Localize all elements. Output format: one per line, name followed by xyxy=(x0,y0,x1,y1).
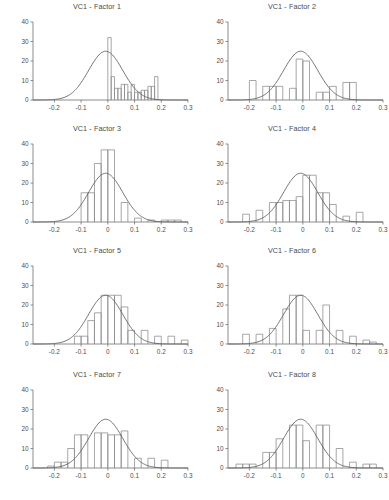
y-tick-label: 10 xyxy=(216,445,224,452)
x-tick-label: 0.2 xyxy=(157,226,166,233)
axis-lines xyxy=(33,144,188,222)
x-tick-label: 0.1 xyxy=(325,348,334,355)
y-tick-label: 10 xyxy=(21,321,29,328)
x-tick-label: 0.3 xyxy=(184,226,193,233)
histogram-bar xyxy=(121,203,128,223)
histogram-bar xyxy=(249,81,256,101)
x-tick-label: 0.2 xyxy=(157,472,166,479)
histogram-bar xyxy=(316,425,323,468)
histogram-bar xyxy=(316,330,323,344)
histogram-bar xyxy=(296,197,303,222)
x-tick-label: -0.1 xyxy=(271,472,282,479)
x-tick-label: 0.3 xyxy=(184,472,193,479)
y-tick-label: 20 xyxy=(21,179,29,186)
x-tick-label: -0.2 xyxy=(49,226,60,233)
histogram-bar xyxy=(336,330,343,344)
histogram-bar xyxy=(111,77,114,100)
normal-density-curve xyxy=(228,295,383,344)
x-tick-label: 0 xyxy=(106,472,110,479)
x-tick-label: 0.3 xyxy=(184,104,193,111)
y-tick-label: 0 xyxy=(220,464,224,471)
histogram-bar xyxy=(236,464,243,468)
histogram-bar xyxy=(141,330,148,344)
histogram-bar xyxy=(81,193,88,222)
y-tick-label: 40 xyxy=(21,18,29,25)
y-tick-label: 10 xyxy=(21,199,29,206)
histogram-bar xyxy=(121,84,124,100)
histogram-bar xyxy=(350,336,357,344)
x-tick-label: 0.1 xyxy=(325,472,334,479)
y-tick-label: 30 xyxy=(21,160,29,167)
histogram-bar xyxy=(108,295,115,344)
y-tick-label: 10 xyxy=(216,321,224,328)
plot-area: 010203040-0.2-0.100.10.20.3 xyxy=(195,0,389,124)
histogram-bar xyxy=(323,193,330,222)
plot-area: 010203040-0.2-0.100.10.20.3 xyxy=(0,368,194,492)
x-tick-label: -0.2 xyxy=(244,348,255,355)
histogram-bar xyxy=(283,201,290,222)
x-tick-label: -0.2 xyxy=(49,472,60,479)
normal-density-curve xyxy=(33,173,188,222)
x-tick-label: 0 xyxy=(301,104,305,111)
histogram-bar xyxy=(343,82,350,100)
histogram-bar xyxy=(155,77,158,100)
histogram-bar xyxy=(269,86,276,100)
x-tick-label: -0.2 xyxy=(49,104,60,111)
y-tick-label: 0 xyxy=(220,340,224,347)
axis-lines xyxy=(228,144,383,222)
histogram-bar xyxy=(118,88,121,100)
y-tick-label: 0 xyxy=(25,340,29,347)
histogram-bar xyxy=(94,313,101,344)
x-tick-label: 0.2 xyxy=(157,348,166,355)
y-tick-label: 30 xyxy=(21,406,29,413)
y-tick-label: 0 xyxy=(25,464,29,471)
x-tick-label: -0.1 xyxy=(271,104,282,111)
normal-density-curve xyxy=(228,419,383,468)
axis-lines xyxy=(33,390,188,468)
histogram-bar xyxy=(74,336,81,344)
x-tick-label: -0.2 xyxy=(49,348,60,355)
x-tick-label: -0.1 xyxy=(76,104,87,111)
plot-area: 010203040-0.2-0.100.10.20.3 xyxy=(195,244,389,368)
normal-density-curve xyxy=(228,51,383,100)
histogram-bar xyxy=(81,435,88,468)
y-tick-label: 0 xyxy=(220,218,224,225)
axis-lines xyxy=(33,22,188,100)
histogram-bar xyxy=(115,435,122,468)
normal-density-curve xyxy=(33,51,188,100)
y-tick-label: 30 xyxy=(216,38,224,45)
axis-lines xyxy=(228,266,383,344)
y-tick-label: 40 xyxy=(216,262,224,269)
y-tick-label: 10 xyxy=(216,77,224,84)
histogram-bar xyxy=(88,193,95,222)
histogram-bar xyxy=(135,218,142,222)
histogram-bar xyxy=(276,86,283,100)
histogram-bar xyxy=(350,82,357,100)
y-tick-label: 0 xyxy=(220,96,224,103)
x-tick-label: 0.1 xyxy=(130,348,139,355)
histogram-bar xyxy=(181,340,188,344)
histogram-bar xyxy=(356,212,363,222)
y-tick-label: 30 xyxy=(216,160,224,167)
x-tick-label: -0.2 xyxy=(244,104,255,111)
x-tick-label: -0.1 xyxy=(76,348,87,355)
histogram-bar xyxy=(81,336,88,344)
x-tick-label: 0 xyxy=(106,226,110,233)
y-tick-label: 40 xyxy=(216,386,224,393)
histogram-bar xyxy=(101,150,108,222)
y-tick-label: 10 xyxy=(21,77,29,84)
x-tick-label: 0 xyxy=(301,348,305,355)
x-tick-label: 0.2 xyxy=(157,104,166,111)
histogram-bar xyxy=(108,435,115,468)
histogram-panel: VC1 - Factor 8010203040-0.2-0.100.10.20.… xyxy=(195,368,389,492)
x-tick-label: 0.1 xyxy=(325,104,334,111)
histogram-bar xyxy=(128,92,131,100)
histogram-bar xyxy=(243,214,250,222)
histogram-bar xyxy=(316,193,323,222)
y-tick-label: 40 xyxy=(21,386,29,393)
histogram-bar xyxy=(121,431,128,468)
y-tick-label: 10 xyxy=(216,199,224,206)
plot-area: 010203040-0.2-0.100.10.20.3 xyxy=(0,244,194,368)
y-tick-label: 20 xyxy=(216,425,224,432)
y-tick-label: 40 xyxy=(216,18,224,25)
